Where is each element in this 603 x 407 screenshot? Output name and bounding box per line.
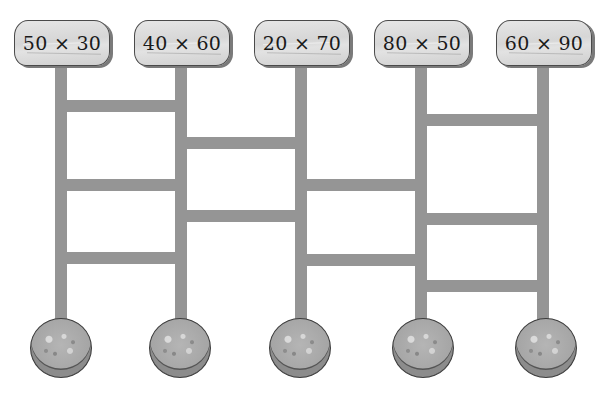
answer-coin-1 <box>30 318 92 378</box>
ladder-rung-4-5-c <box>420 280 544 292</box>
ladder-rung-4-5-b <box>420 213 544 225</box>
sign-1: 50 × 30 <box>14 20 110 66</box>
sign-5-label: 60 × 90 <box>505 32 583 54</box>
ladder-rung-1-2-b <box>60 179 182 191</box>
answer-coin-3 <box>269 318 331 378</box>
ladder-diagram: 50 × 30 40 × 60 20 × 70 80 × 50 60 × 90 <box>0 0 603 407</box>
sign-5: 60 × 90 <box>496 20 592 66</box>
sign-4-label: 80 × 50 <box>383 32 461 54</box>
answer-coin-4 <box>392 318 454 378</box>
sign-1-label: 50 × 30 <box>23 32 101 54</box>
answer-coin-5 <box>515 318 577 378</box>
ladder-rung-2-3-b <box>180 210 302 222</box>
ladder-rung-2-3-a <box>180 137 302 149</box>
ladder-rung-1-2-c <box>60 252 182 264</box>
sign-2-label: 40 × 60 <box>143 32 221 54</box>
answer-coin-2 <box>149 318 211 378</box>
sign-3-label: 20 × 70 <box>263 32 341 54</box>
ladder-pole-3 <box>295 64 307 322</box>
ladder-rung-3-4-a <box>300 179 422 191</box>
ladder-rung-3-4-b <box>300 254 422 266</box>
sign-3: 20 × 70 <box>254 20 350 66</box>
ladder-rung-1-2-a <box>60 100 182 112</box>
sign-4: 80 × 50 <box>374 20 470 66</box>
ladder-rung-4-5-a <box>420 114 544 126</box>
sign-2: 40 × 60 <box>134 20 230 66</box>
